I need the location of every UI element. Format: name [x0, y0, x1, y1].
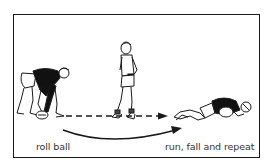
run-fall-repeat-label: run, fall and repeat — [165, 141, 254, 152]
runner-figure-icon — [112, 42, 137, 119]
roll-ball-label: roll ball — [36, 141, 70, 152]
roller-figure-icon — [17, 68, 69, 119]
curved-arrowhead-icon — [171, 126, 182, 134]
arrowhead-icon — [158, 113, 168, 120]
runner-path-arrow — [63, 126, 182, 139]
faller-figure-icon — [174, 98, 251, 120]
